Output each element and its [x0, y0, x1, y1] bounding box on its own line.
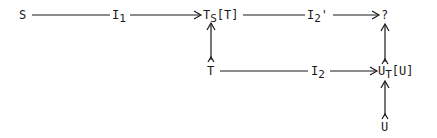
- node-i2-prime-subscript: 2: [314, 12, 321, 25]
- node-ts-t-bracket: [T]: [217, 8, 239, 22]
- node-i1-subscript: 1: [119, 12, 126, 25]
- node-i2-prime-mark: ': [321, 8, 328, 22]
- node-question-label: ?: [381, 8, 388, 22]
- node-s-label: S: [19, 8, 26, 22]
- node-i2: I2: [311, 65, 325, 78]
- node-t: T: [207, 65, 214, 77]
- node-ut-u-subscript: T: [385, 68, 392, 81]
- node-u-label: U: [381, 120, 388, 134]
- node-i2-prime: I2': [307, 9, 328, 22]
- node-ts-t: TS[T]: [203, 9, 239, 22]
- node-u: U: [381, 121, 388, 133]
- node-t-label: T: [207, 64, 214, 78]
- node-i2-subscript: 2: [318, 68, 325, 81]
- arrow-tail-icon: [382, 114, 388, 119]
- node-i1: I1: [112, 9, 126, 22]
- node-ut-u-bracket: [U]: [392, 64, 414, 78]
- node-question: ?: [381, 9, 388, 21]
- node-s: S: [19, 9, 26, 21]
- node-ts-t-subscript: S: [210, 12, 217, 25]
- node-ut-u: UT[U]: [378, 65, 414, 78]
